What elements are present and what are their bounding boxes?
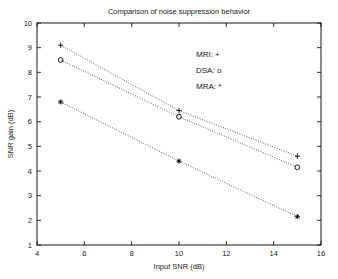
y-tick-label: 1	[28, 241, 32, 250]
y-tick-label: 7	[28, 93, 32, 102]
x-tick-label: 6	[82, 249, 86, 258]
y-tick-label: 9	[28, 43, 32, 52]
y-tick-label: 6	[28, 117, 32, 126]
y-axis-title: SNR gain (dB)	[6, 109, 15, 158]
y-tick-label: 2	[28, 216, 32, 225]
y-tick-label: 10	[24, 19, 32, 28]
x-tick-label: 14	[269, 249, 277, 258]
y-tick-label: 3	[28, 191, 32, 200]
y-tick-label: 4	[28, 167, 32, 176]
x-axis-title: Input SNR (dB)	[154, 262, 205, 271]
legend-entry: MRA: *	[196, 82, 221, 91]
legend-entry: MRI: +	[196, 50, 220, 59]
x-tick-label: 10	[175, 249, 183, 258]
x-tick-label: 16	[317, 249, 325, 258]
chart-legend: MRI: +DSA: oMRA: *	[196, 50, 222, 91]
chart-svg: Comparison of noise suppression behavior…	[0, 0, 338, 279]
x-tick-label: 8	[130, 249, 134, 258]
chart-title: Comparison of noise suppression behavior	[108, 7, 251, 16]
x-tick-label: 4	[35, 249, 39, 258]
legend-entry: DSA: o	[196, 66, 222, 75]
chart-figure: Comparison of noise suppression behavior…	[0, 0, 338, 279]
figure-background	[0, 0, 338, 279]
x-tick-label: 12	[222, 249, 230, 258]
y-tick-label: 8	[28, 68, 32, 77]
y-tick-label: 5	[28, 142, 32, 151]
